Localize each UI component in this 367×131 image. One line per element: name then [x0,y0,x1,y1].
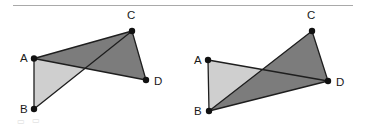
vertex-dot-b [31,106,37,112]
vertex-label-a: A [194,54,202,66]
quadrilateral-crossed-right: ABCD [194,9,344,117]
vertex-dot-c [309,28,315,34]
vertex-dot-a [205,57,211,63]
vertex-dot-a [31,55,37,61]
faint-margin-mark-2: ▭ [32,116,40,125]
quadrilateral-crossed-left: ABCD [20,9,162,115]
vertex-dot-c [129,28,135,34]
vertex-dot-d [325,78,331,84]
vertex-label-b: B [194,105,202,117]
faint-margin-mark: ▭ [17,117,25,126]
vertex-label-d: D [336,76,344,88]
figure-canvas: ABCDABCD▭▭ [0,0,367,131]
vertex-label-b: B [20,103,28,115]
vertex-dot-b [206,108,212,114]
vertex-label-d: D [154,75,162,87]
geometry-diagram: ABCDABCD▭▭ [0,0,367,131]
vertex-label-c: C [127,9,135,21]
vertex-label-a: A [20,52,28,64]
vertex-dot-d [143,77,149,83]
vertex-label-c: C [307,9,315,21]
